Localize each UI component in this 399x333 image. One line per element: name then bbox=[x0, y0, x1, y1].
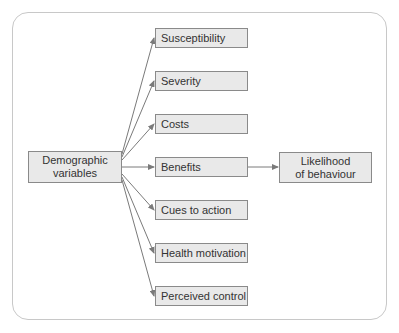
cues-to-action-box: Cues to action bbox=[155, 200, 248, 220]
arrow-to-cues bbox=[122, 174, 154, 210]
severity-box: Severity bbox=[155, 71, 248, 91]
demographic-label-line2: variables bbox=[53, 167, 97, 180]
arrow-to-health-motivation bbox=[122, 177, 154, 253]
cues-to-action-label: Cues to action bbox=[161, 204, 231, 216]
health-motivation-box: Health motivation bbox=[155, 243, 248, 263]
demographic-variables-box: Demographic variables bbox=[28, 151, 122, 183]
arrow-to-perceived-control bbox=[122, 180, 154, 296]
arrow-to-costs bbox=[122, 124, 154, 160]
likelihood-label-line1: Likelihood bbox=[301, 155, 351, 168]
arrow-to-susceptibility bbox=[122, 38, 154, 154]
severity-label: Severity bbox=[161, 75, 201, 87]
benefits-label: Benefits bbox=[161, 161, 201, 173]
health-motivation-label: Health motivation bbox=[161, 247, 246, 259]
likelihood-label-line2: of behaviour bbox=[295, 168, 356, 181]
costs-box: Costs bbox=[155, 114, 248, 134]
susceptibility-label: Susceptibility bbox=[161, 32, 225, 44]
costs-label: Costs bbox=[161, 118, 189, 130]
perceived-control-label: Perceived control bbox=[161, 290, 246, 302]
arrow-to-severity bbox=[122, 81, 154, 157]
susceptibility-box: Susceptibility bbox=[155, 28, 248, 48]
demographic-label-line1: Demographic bbox=[42, 154, 107, 167]
likelihood-of-behaviour-box: Likelihood of behaviour bbox=[279, 152, 372, 183]
perceived-control-box: Perceived control bbox=[155, 286, 248, 306]
benefits-box: Benefits bbox=[155, 157, 248, 177]
